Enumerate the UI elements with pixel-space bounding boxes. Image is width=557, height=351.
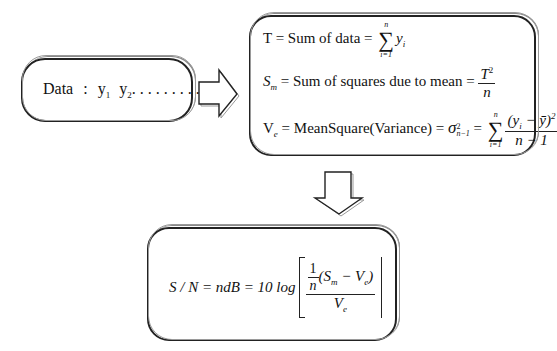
ve-sigma-lower: i=1 — [488, 141, 504, 149]
sigma-icon: n∑i=1 — [378, 21, 394, 59]
ellipsis: . . . . . . . . . — [132, 80, 200, 97]
sigma-lower: i=1 — [378, 51, 394, 59]
sm-den: n — [478, 84, 495, 101]
data-label: Data — [43, 80, 73, 97]
sigma-var-sub: n−1 — [456, 130, 469, 137]
y1-sub: 1 — [106, 90, 111, 100]
y1: y — [98, 80, 106, 97]
ve-fraction: (yi − ȳ)2n − 1 — [505, 111, 557, 149]
sn-one: 1 — [308, 261, 319, 278]
data-sequence-text: Data : y1 y2. . . . . . . . .yn — [43, 80, 212, 100]
sn-fraction: 1n(Sm − Ve)Ve — [306, 261, 376, 314]
sigma-icon: n∑i=1 — [488, 111, 504, 149]
sn-expr-open: (S — [319, 268, 332, 284]
sn-den: V — [334, 295, 343, 311]
sn-formula: S / N = ndB = 10 log1n(Sm − Ve)Ve — [169, 257, 382, 318]
total-lhs: T = Sum of data = — [263, 30, 376, 46]
ve-num-sup: 2 — [551, 111, 556, 121]
ve-text: = MeanSquare(Variance) = — [278, 120, 448, 136]
sigma-var: σ — [448, 118, 456, 137]
arrow-down-icon — [312, 170, 366, 218]
sm-text: = Sum of squares due to mean = — [277, 73, 478, 89]
arrow-right-icon — [197, 68, 243, 120]
ve-den: n − 1 — [505, 132, 557, 149]
y2: y — [119, 80, 127, 97]
ve-num-rest: − ȳ) — [522, 112, 551, 128]
total-term: y — [396, 30, 403, 46]
total-term-sub: i — [403, 39, 406, 49]
sn-minus: − V — [338, 268, 365, 284]
sm-num: T — [480, 66, 488, 82]
data-input-box: Data : y1 y2. . . . . . . . .yn — [21, 58, 193, 122]
sn-lhs: S / N = ndB = 10 log — [169, 279, 296, 295]
sn-n: n — [308, 278, 319, 294]
ve-eq: = — [470, 120, 486, 136]
sn-bracket: 1n(Sm − Ve)Ve — [299, 257, 383, 318]
statistics-box: T = Sum of data = n∑i=1yi Sm = Sum of sq… — [249, 15, 536, 156]
total-formula: T = Sum of data = n∑i=1yi — [263, 21, 405, 59]
sm-fraction: T2n — [478, 65, 495, 101]
signal-noise-box: S / N = ndB = 10 log1n(Sm − Ve)Ve — [147, 227, 397, 341]
ve-formula: Ve = MeanSquare(Variance) = σ2n−1 = n∑i=… — [263, 111, 557, 149]
data-separator: : — [83, 80, 87, 97]
ve-num: (y — [507, 112, 519, 128]
sm-num-sup: 2 — [489, 65, 494, 75]
sm-formula: Sm = Sum of squares due to mean = T2n — [263, 65, 495, 101]
ve-symbol: V — [263, 120, 274, 136]
sn-close: ) — [368, 268, 373, 284]
sn-den-sub: e — [343, 304, 347, 314]
sm-symbol: S — [263, 73, 271, 89]
